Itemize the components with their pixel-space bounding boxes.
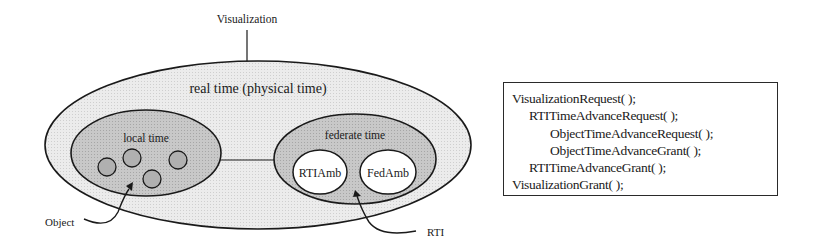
code-line-object-time-advance-grant: ObjectTimeAdvanceGrant( ); (512, 142, 777, 159)
visualization-label: Visualization (217, 13, 278, 25)
object-circle-4 (169, 151, 187, 169)
object-circle-3 (143, 170, 161, 188)
local-time-label: local time (123, 132, 169, 144)
call-sequence-box: VisualizationRequest( ); RTITimeAdvanceR… (503, 82, 778, 196)
rti-callout-label: RTI (427, 226, 444, 238)
code-line-object-time-advance-request: ObjectTimeAdvanceRequest( ); (512, 125, 777, 142)
rtiamb-label: RTIAmb (299, 166, 342, 180)
code-line-visualization-grant: VisualizationGrant( ); (512, 176, 777, 193)
object-circle-2 (123, 149, 141, 167)
object-callout-label: Object (45, 216, 74, 228)
code-line-rti-time-advance-request: RTITimeAdvanceRequest( ); (512, 107, 777, 124)
code-line-rti-time-advance-grant: RTITimeAdvanceGrant( ); (512, 159, 777, 176)
federate-time-label: federate time (325, 129, 385, 141)
real-time-label: real time (physical time) (189, 81, 327, 97)
object-circle-1 (98, 158, 116, 176)
code-line-visualization-request: VisualizationRequest( ); (512, 90, 777, 107)
fedamb-label: FedAmb (367, 166, 409, 180)
